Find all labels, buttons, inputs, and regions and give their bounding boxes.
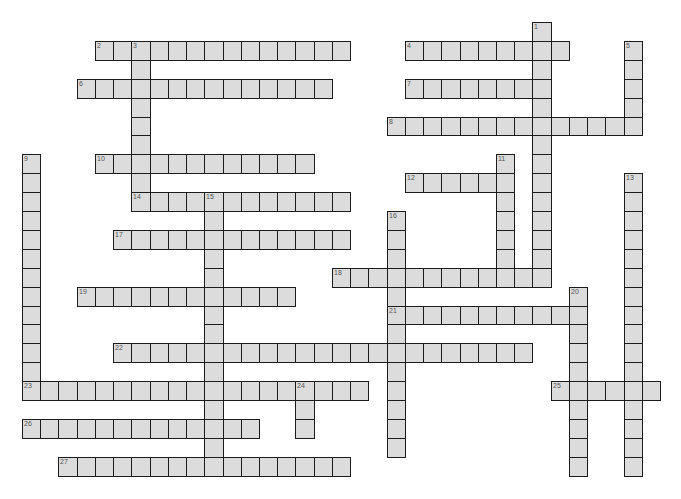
- crossword-cell[interactable]: [277, 381, 296, 401]
- crossword-cell[interactable]: 13: [624, 173, 643, 193]
- crossword-cell[interactable]: 24: [295, 381, 315, 401]
- crossword-cell[interactable]: [624, 324, 643, 344]
- crossword-cell[interactable]: [624, 438, 643, 458]
- crossword-cell[interactable]: [204, 324, 224, 344]
- crossword-cell[interactable]: [478, 173, 497, 193]
- crossword-cell[interactable]: [22, 249, 41, 269]
- crossword-cell[interactable]: [22, 324, 41, 344]
- crossword-cell[interactable]: [478, 343, 497, 363]
- crossword-cell[interactable]: [168, 287, 187, 307]
- crossword-cell[interactable]: [532, 211, 552, 231]
- crossword-cell[interactable]: [624, 79, 643, 99]
- crossword-cell[interactable]: 17: [113, 230, 132, 250]
- crossword-cell[interactable]: [405, 117, 424, 136]
- crossword-cell[interactable]: [332, 41, 351, 61]
- crossword-cell[interactable]: [587, 117, 606, 136]
- crossword-cell[interactable]: [350, 381, 369, 401]
- crossword-cell[interactable]: [186, 287, 205, 307]
- crossword-cell[interactable]: [22, 287, 41, 307]
- crossword-cell[interactable]: [387, 362, 406, 382]
- crossword-cell[interactable]: [150, 79, 169, 99]
- crossword-cell[interactable]: [624, 192, 643, 212]
- crossword-cell[interactable]: [150, 192, 169, 212]
- crossword-cell[interactable]: [569, 419, 588, 439]
- crossword-cell[interactable]: [423, 268, 442, 288]
- crossword-cell[interactable]: [186, 230, 205, 250]
- crossword-cell[interactable]: [223, 457, 242, 477]
- crossword-cell[interactable]: [223, 419, 242, 439]
- crossword-cell[interactable]: [423, 173, 442, 193]
- crossword-cell[interactable]: [441, 41, 461, 61]
- crossword-cell[interactable]: [204, 457, 224, 477]
- crossword-cell[interactable]: [624, 343, 643, 363]
- crossword-cell[interactable]: [441, 306, 461, 325]
- crossword-cell[interactable]: [22, 192, 41, 212]
- crossword-cell[interactable]: [496, 192, 515, 212]
- crossword-cell[interactable]: 16: [387, 211, 406, 231]
- crossword-cell[interactable]: [95, 419, 114, 439]
- crossword-cell[interactable]: [569, 381, 588, 401]
- crossword-cell[interactable]: [368, 343, 388, 363]
- crossword-cell[interactable]: [478, 41, 497, 61]
- crossword-cell[interactable]: [131, 230, 151, 250]
- crossword-cell[interactable]: [95, 457, 114, 477]
- crossword-cell[interactable]: [150, 343, 169, 363]
- crossword-cell[interactable]: 5: [624, 41, 643, 61]
- crossword-cell[interactable]: [532, 98, 552, 118]
- crossword-cell[interactable]: [624, 117, 643, 136]
- crossword-cell[interactable]: [150, 287, 169, 307]
- crossword-cell[interactable]: 25: [551, 381, 570, 401]
- crossword-cell[interactable]: [204, 79, 224, 99]
- crossword-cell[interactable]: [186, 192, 205, 212]
- crossword-cell[interactable]: [131, 135, 151, 155]
- crossword-cell[interactable]: [405, 306, 424, 325]
- crossword-cell[interactable]: [496, 173, 515, 193]
- crossword-cell[interactable]: [387, 324, 406, 344]
- crossword-cell[interactable]: [405, 268, 424, 288]
- crossword-cell[interactable]: [387, 343, 406, 363]
- crossword-cell[interactable]: [314, 41, 333, 61]
- crossword-cell[interactable]: 21: [387, 306, 406, 325]
- crossword-cell[interactable]: [40, 419, 59, 439]
- crossword-cell[interactable]: [259, 79, 278, 99]
- crossword-cell[interactable]: [496, 343, 515, 363]
- crossword-cell[interactable]: 1: [532, 22, 552, 42]
- crossword-cell[interactable]: [569, 324, 588, 344]
- crossword-cell[interactable]: [168, 457, 187, 477]
- crossword-cell[interactable]: [22, 173, 41, 193]
- crossword-cell[interactable]: [295, 79, 315, 99]
- crossword-cell[interactable]: [168, 79, 187, 99]
- crossword-cell[interactable]: [423, 343, 442, 363]
- crossword-cell[interactable]: [277, 41, 296, 61]
- crossword-cell[interactable]: [514, 268, 533, 288]
- crossword-cell[interactable]: [314, 457, 333, 477]
- crossword-cell[interactable]: [387, 287, 406, 307]
- crossword-cell[interactable]: [514, 41, 533, 61]
- crossword-cell[interactable]: [241, 419, 260, 439]
- crossword-cell[interactable]: [241, 457, 260, 477]
- crossword-cell[interactable]: [460, 306, 479, 325]
- crossword-cell[interactable]: [113, 79, 132, 99]
- crossword-cell[interactable]: 8: [387, 117, 406, 136]
- crossword-cell[interactable]: [460, 41, 479, 61]
- crossword-cell[interactable]: [423, 306, 442, 325]
- crossword-cell[interactable]: [605, 117, 625, 136]
- crossword-cell[interactable]: [277, 457, 296, 477]
- crossword-cell[interactable]: [113, 287, 132, 307]
- crossword-cell[interactable]: [259, 154, 278, 174]
- crossword-cell[interactable]: [387, 419, 406, 439]
- crossword-cell[interactable]: [113, 41, 132, 61]
- crossword-cell[interactable]: [496, 268, 515, 288]
- crossword-cell[interactable]: [241, 230, 260, 250]
- crossword-cell[interactable]: [496, 306, 515, 325]
- crossword-cell[interactable]: [551, 41, 570, 61]
- crossword-cell[interactable]: [295, 154, 315, 174]
- crossword-cell[interactable]: [460, 79, 479, 99]
- crossword-cell[interactable]: [186, 154, 205, 174]
- crossword-cell[interactable]: 10: [95, 154, 114, 174]
- crossword-cell[interactable]: [642, 381, 661, 401]
- crossword-cell[interactable]: [259, 41, 278, 61]
- crossword-cell[interactable]: [241, 381, 260, 401]
- crossword-cell[interactable]: [168, 419, 187, 439]
- crossword-cell[interactable]: [478, 306, 497, 325]
